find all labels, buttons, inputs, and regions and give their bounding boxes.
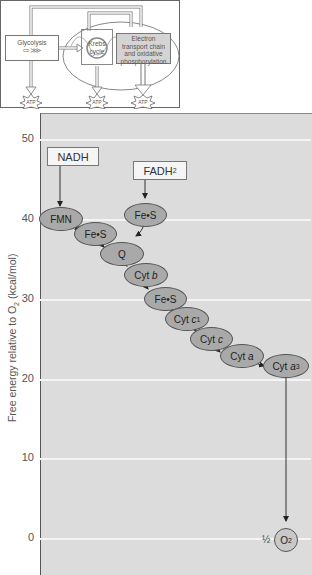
node-fes-1: Fe•S — [74, 222, 117, 246]
node-cyt-b: Cyt b — [124, 263, 168, 287]
half-label: ½ — [262, 534, 270, 545]
nadh-box: NADH — [47, 147, 99, 166]
node-cyt-a3: Cyt a3 — [263, 354, 309, 378]
node-fes-fadh: Fe•S — [124, 203, 167, 227]
fadh2-box: FADH2 — [133, 161, 187, 180]
node-q: Q — [100, 242, 144, 266]
node-o2: O2 — [274, 528, 298, 552]
node-cyt-a: Cyt a — [220, 344, 264, 368]
